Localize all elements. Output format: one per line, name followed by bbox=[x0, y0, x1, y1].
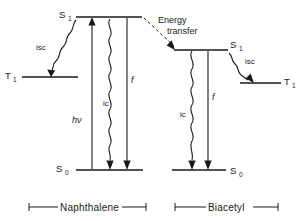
left-species-label: Naphthalene bbox=[60, 202, 119, 213]
energy-level-diagram: S 1 T 1 S 0 isc hν ic f Energy transfer bbox=[0, 0, 301, 221]
right-level-s0-label: S bbox=[230, 165, 236, 176]
energy-transfer-label-line1: Energy bbox=[158, 15, 187, 25]
left-level-s1-label: S bbox=[59, 9, 65, 20]
right-level-s1-label: S bbox=[230, 39, 236, 50]
right-isc-arrowhead bbox=[246, 73, 254, 83]
left-process-isc-label: isc bbox=[36, 43, 46, 52]
right-level-s0-subscript: 0 bbox=[239, 171, 243, 178]
left-fluorescence-arrowhead bbox=[123, 161, 130, 171]
right-fluorescence-arrowhead bbox=[204, 161, 211, 171]
right-level-t1-subscript: 1 bbox=[292, 82, 296, 89]
right-species-label: Biacetyl bbox=[208, 202, 245, 213]
left-level-s0-label: S bbox=[56, 163, 62, 174]
left-level-t1-subscript: 1 bbox=[13, 76, 17, 83]
left-level-t1-label: T bbox=[5, 70, 11, 81]
right-level-t1-label: T bbox=[284, 76, 290, 87]
left-ic-wavy-arrow bbox=[109, 19, 112, 160]
energy-transfer-label-line2: transfer bbox=[167, 26, 198, 36]
left-absorption-arrowhead bbox=[88, 17, 95, 26]
left-isc-wavy-arrow bbox=[51, 20, 76, 72]
left-level-s0-subscript: 0 bbox=[65, 169, 69, 176]
left-process-ic-label: ic bbox=[103, 99, 109, 108]
left-isc-arrowhead bbox=[47, 70, 55, 77]
left-process-fluorescence-label: f bbox=[131, 75, 135, 85]
right-ic-arrowhead bbox=[188, 161, 195, 171]
right-process-isc-label: isc bbox=[245, 57, 255, 66]
right-process-fluorescence-label: f bbox=[212, 92, 216, 102]
right-level-s1-subscript: 1 bbox=[239, 45, 243, 52]
left-ic-arrowhead bbox=[106, 161, 113, 171]
right-process-ic-label: ic bbox=[180, 110, 186, 119]
left-level-s1-subscript: 1 bbox=[68, 15, 72, 22]
left-process-absorption-label: hν bbox=[72, 115, 82, 125]
right-ic-wavy-arrow bbox=[191, 51, 194, 160]
